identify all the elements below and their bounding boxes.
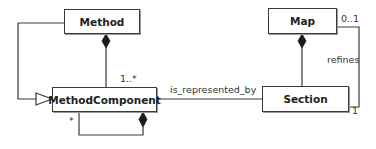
class-map-name: Map (290, 15, 315, 27)
class-section-name: Section (283, 93, 327, 105)
multiplicity-1: 1 (352, 105, 358, 116)
composition-diamond-icon (102, 34, 110, 48)
multiplicity-1-many: 1..* (120, 73, 137, 84)
refines-label: refines (327, 54, 359, 65)
class-method-name: Method (80, 16, 125, 28)
is-represented-by-label: is_represented_by (170, 84, 256, 95)
multiplicity-0-1: 0..1 (341, 13, 359, 24)
self-composition-line (79, 112, 143, 135)
class-method-component-name: MethodComponent (48, 94, 160, 106)
class-method-component[interactable]: MethodComponent (52, 87, 157, 112)
self-composition-diamond-icon (139, 112, 147, 127)
multiplicity-star: * (69, 115, 74, 126)
class-section[interactable]: Section (262, 86, 349, 112)
class-map[interactable]: Map (268, 8, 337, 34)
composition-diamond-map-icon (298, 34, 306, 48)
class-method[interactable]: Method (64, 9, 140, 34)
